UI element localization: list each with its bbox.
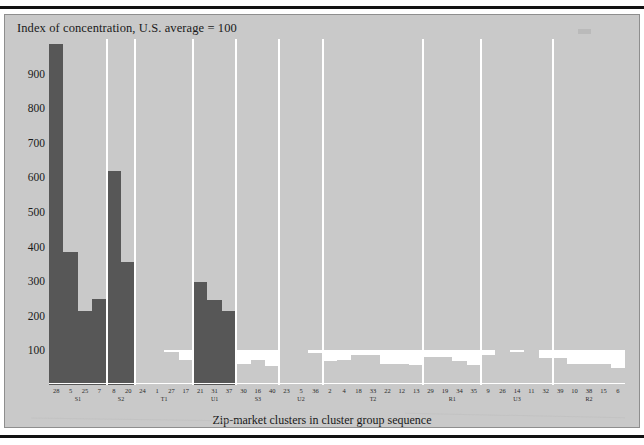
y-axis-tick: 200 — [28, 310, 45, 322]
bar-17 — [179, 360, 193, 385]
page-rule-top — [0, 6, 644, 9]
x-tick-33: 33 — [370, 387, 377, 394]
group-extent-rule-S3 — [236, 383, 279, 384]
bar-16 — [251, 360, 265, 385]
y-axis-tick: 400 — [28, 241, 45, 253]
x-tick-29: 29 — [427, 387, 434, 394]
x-tick-1: 1 — [155, 387, 158, 394]
y-axis: 900800700600500400300200100 — [11, 39, 45, 385]
x-tick-26: 26 — [499, 387, 506, 394]
bar-29 — [423, 357, 437, 385]
bar-13 — [409, 365, 423, 385]
bar-stem-8 — [107, 350, 121, 385]
bar-stem-37 — [222, 350, 236, 385]
x-tick-8: 8 — [112, 387, 115, 394]
bar-stem-5 — [294, 350, 308, 385]
group-separator-S1 — [106, 39, 108, 385]
bar-14 — [510, 352, 524, 385]
x-tick-2: 2 — [328, 387, 331, 394]
group-extent-rule-T2 — [323, 383, 424, 384]
bar-stem-20 — [121, 350, 135, 385]
bar-1 — [150, 334, 164, 351]
bar-stem-1 — [150, 350, 164, 385]
bar-2 — [323, 361, 337, 385]
bar-38 — [582, 364, 596, 385]
x-tick-34: 34 — [456, 387, 463, 394]
x-tick-5: 5 — [69, 387, 72, 394]
group-separator-S2 — [134, 39, 136, 385]
group-label-R1: R1 — [449, 396, 456, 402]
group-label-R2: R2 — [585, 396, 592, 402]
bar-35 — [467, 365, 481, 385]
bar-37 — [222, 311, 236, 351]
bar-stem-7 — [92, 350, 106, 385]
x-tick-36: 36 — [312, 387, 319, 394]
bar-stem-21 — [193, 350, 207, 385]
x-tick-32: 32 — [543, 387, 550, 394]
bar-27 — [164, 352, 178, 385]
bar-39 — [553, 358, 567, 385]
x-tick-40: 40 — [269, 387, 276, 394]
x-tick-20: 20 — [125, 387, 132, 394]
bar-7 — [92, 299, 106, 351]
bar-stem-26 — [495, 350, 509, 385]
bar-33 — [366, 355, 380, 385]
y-axis-tick: 100 — [28, 344, 45, 356]
x-tick-30: 30 — [240, 387, 247, 394]
y-axis-tick: 600 — [28, 171, 45, 183]
bar-18 — [351, 355, 365, 385]
group-separator-R1 — [480, 39, 482, 385]
group-separator-U2 — [322, 39, 324, 385]
group-label-S2: S2 — [118, 396, 124, 402]
page-artifact-mark — [578, 29, 591, 34]
group-label-U3: U3 — [513, 396, 520, 402]
x-tick-5: 5 — [299, 387, 302, 394]
group-extent-rule-R1 — [423, 383, 481, 384]
group-separator-T1 — [192, 39, 194, 385]
x-tick-17: 17 — [183, 387, 190, 394]
group-label-S1: S1 — [75, 396, 81, 402]
x-tick-24: 24 — [139, 387, 146, 394]
x-tick-14: 14 — [514, 387, 521, 394]
y-axis-tick: 700 — [28, 137, 45, 149]
y-axis-tick: 300 — [28, 275, 45, 287]
bar-31 — [207, 300, 221, 350]
x-tick-7: 7 — [98, 387, 101, 394]
x-tick-18: 18 — [355, 387, 362, 394]
bar-32 — [539, 358, 553, 385]
x-tick-35: 35 — [471, 387, 478, 394]
group-separator-U1 — [235, 39, 237, 385]
bar-stem-11 — [524, 350, 538, 385]
x-tick-38: 38 — [586, 387, 593, 394]
bar-4 — [337, 360, 351, 385]
bar-34 — [452, 361, 466, 385]
bar-36 — [308, 353, 322, 385]
group-extent-rule-U2 — [279, 383, 322, 384]
bar-22 — [380, 364, 394, 385]
bar-9 — [481, 355, 495, 385]
page-rule-bottom — [0, 435, 644, 438]
group-extent-rule-U3 — [481, 383, 553, 384]
bar-15 — [596, 364, 610, 385]
group-extent-rule-S2 — [107, 383, 136, 384]
group-label-U1: U1 — [211, 396, 218, 402]
bar-stem-25 — [78, 350, 92, 385]
x-tick-21: 21 — [197, 387, 204, 394]
x-tick-22: 22 — [384, 387, 391, 394]
x-axis-labels: 285257S1820S22412717T1213137U1301640S323… — [49, 387, 625, 413]
group-extent-rule-U1 — [193, 383, 236, 384]
bar-stem-31 — [207, 350, 221, 385]
bar-8 — [107, 171, 121, 351]
bar-10 — [567, 364, 581, 385]
x-tick-10: 10 — [571, 387, 578, 394]
bar-12 — [395, 364, 409, 385]
x-tick-28: 28 — [53, 387, 60, 394]
x-tick-27: 27 — [168, 387, 175, 394]
bar-23 — [279, 342, 293, 351]
x-tick-25: 25 — [82, 387, 89, 394]
bar-stem-5 — [63, 350, 77, 385]
bar-stem-24 — [135, 350, 149, 385]
x-tick-19: 19 — [442, 387, 449, 394]
x-tick-9: 9 — [487, 387, 490, 394]
group-extent-rule-T1 — [135, 383, 193, 384]
